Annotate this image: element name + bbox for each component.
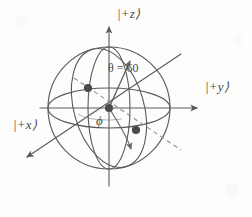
phi-angle-label: ϕ	[96, 114, 103, 127]
bloch-sphere-canvas	[0, 0, 252, 217]
origin-dot	[105, 104, 113, 112]
y-axis-label: |+y⟩	[205, 80, 229, 93]
bloch-sphere-figure: |+z⟩ |+y⟩ |+x⟩ θ = 60 ϕ	[0, 0, 252, 217]
z-axis-label: |+z⟩	[117, 7, 140, 20]
lower-right-dot	[132, 126, 140, 134]
theta-angle-label: θ = 60	[108, 62, 139, 74]
upper-left-dot	[84, 84, 92, 92]
x-axis-line	[27, 54, 181, 157]
x-axis-label: |+x⟩	[13, 118, 37, 131]
